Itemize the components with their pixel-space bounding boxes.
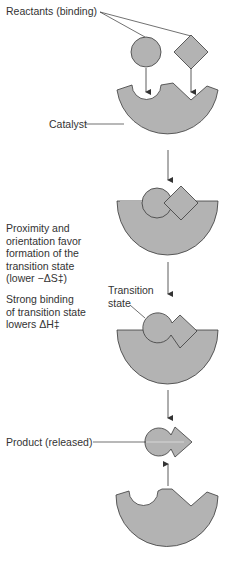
strong-binding-line: Strong binding — [6, 293, 86, 306]
proximity-line: formation of the — [6, 247, 81, 260]
product-label: Product (released) — [6, 436, 92, 449]
catalyst-label: Catalyst — [49, 118, 87, 131]
strong-binding-label: Strong binding of transition state lower… — [6, 293, 86, 331]
strong-binding-line: of transition state — [6, 306, 86, 319]
transition-state-line: state — [108, 297, 154, 310]
reactant-circle — [131, 37, 161, 67]
strong-binding-line: lowers ΔH‡ — [6, 318, 86, 331]
reactants-leader-line — [100, 12, 145, 37]
catalyst-regenerated — [116, 489, 218, 547]
proximity-line: orientation favor — [6, 235, 81, 248]
reactant-diamond — [174, 35, 208, 69]
proximity-line: transition state — [6, 260, 81, 273]
reactants-leader-line — [100, 12, 191, 36]
catalyst-empty — [117, 83, 218, 134]
transition-state-label: Transition state — [108, 284, 154, 309]
proximity-line: (lower −ΔS‡) — [6, 272, 81, 285]
proximity-line: Proximity and — [6, 222, 81, 235]
reactants-label: Reactants (binding) — [6, 5, 97, 18]
proximity-label: Proximity and orientation favor formatio… — [6, 222, 81, 285]
transition-state-line: Transition — [108, 284, 154, 297]
